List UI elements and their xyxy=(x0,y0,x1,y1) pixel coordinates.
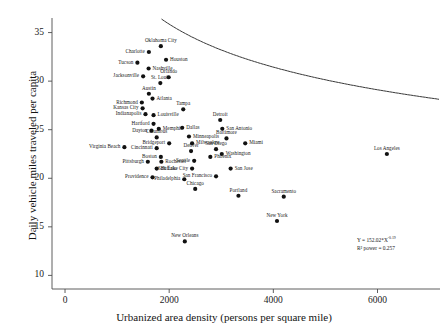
data-point-label: Tampa xyxy=(176,101,190,106)
data-point-label: Miami xyxy=(249,141,263,146)
data-point xyxy=(183,239,187,243)
data-point xyxy=(208,155,212,159)
data-point-label: Portland xyxy=(230,188,248,193)
power-fit-curve xyxy=(162,19,440,99)
data-point xyxy=(214,174,218,178)
data-point-label: Salt Lake City xyxy=(158,166,188,171)
data-point xyxy=(282,195,286,199)
data-point-label: Cincinnati xyxy=(131,146,153,151)
data-point-label: Austin xyxy=(142,86,156,91)
data-point-label: Oklahoma City xyxy=(145,38,177,43)
data-point-label: New York xyxy=(266,213,287,218)
data-point xyxy=(385,152,389,156)
data-point xyxy=(192,159,196,163)
fit-exponent: -0.19 xyxy=(388,236,396,240)
data-point xyxy=(189,149,193,153)
data-point-label: Sacramento xyxy=(271,189,296,194)
data-point xyxy=(190,166,194,170)
data-point-label: Dallas xyxy=(186,125,199,130)
data-point-label: Virginia Beach xyxy=(89,145,120,150)
data-point xyxy=(143,112,147,116)
data-point-label: Jacksonville xyxy=(113,74,139,79)
data-point xyxy=(214,147,218,151)
data-point-label: Tucson xyxy=(118,60,133,65)
data-point-label: New Orleans xyxy=(171,233,198,238)
data-point xyxy=(147,66,151,70)
x-tick-label-4000: 4000 xyxy=(243,296,303,306)
fit-equation-annotation: Y = 152.02*X-0.19 R² power = 0.257 xyxy=(357,236,396,253)
scatter-plot-figure: 101520253035 0200040006000 Oklahoma City… xyxy=(0,0,448,334)
data-point-label: San Jose xyxy=(235,166,253,171)
data-point-label: Charlotte xyxy=(125,49,144,54)
data-point-label: Providence xyxy=(125,175,148,180)
data-point xyxy=(243,141,247,145)
data-point-label: Louisville xyxy=(158,113,179,118)
data-point xyxy=(275,219,279,223)
data-point-label: Chicago xyxy=(187,181,204,186)
data-point-label: San Diego xyxy=(205,141,227,146)
x-tick-label-0: 0 xyxy=(35,296,95,306)
x-tick-label-2000: 2000 xyxy=(139,296,199,306)
fit-equation-text: Y = 152.02*X xyxy=(357,237,388,243)
data-point-label: St. Louis xyxy=(151,75,170,80)
data-point-label: Denver xyxy=(183,143,198,148)
data-point-label: Indianapolis xyxy=(116,112,142,117)
x-axis-ticks xyxy=(65,289,377,293)
data-point xyxy=(181,107,185,111)
data-point xyxy=(155,146,159,150)
data-point xyxy=(147,50,151,54)
data-point xyxy=(158,81,162,85)
data-point xyxy=(159,160,163,164)
data-point-label: Columbus xyxy=(146,129,167,134)
data-point-label: Houston xyxy=(170,57,188,62)
data-point-label: Phoenix xyxy=(214,154,231,159)
x-tick-label-6000: 6000 xyxy=(348,296,408,306)
data-point xyxy=(140,100,144,104)
fit-equation-line: Y = 152.02*X-0.19 xyxy=(357,236,396,244)
data-point-label: Baltimore xyxy=(216,130,237,135)
data-point-label: Boston xyxy=(142,154,157,159)
data-point xyxy=(141,74,145,78)
data-point xyxy=(135,61,139,65)
data-point-label: Detroit xyxy=(213,112,228,117)
data-point xyxy=(122,145,126,149)
data-point xyxy=(150,97,154,101)
data-point-label: Seattle xyxy=(176,158,190,163)
data-point xyxy=(236,194,240,198)
y-axis-ticks xyxy=(48,33,52,276)
y-axis-title: Daily vehicle miles traveled per capita xyxy=(27,36,38,276)
data-point-label: Atlanta xyxy=(157,96,172,101)
data-point xyxy=(159,44,163,48)
data-point xyxy=(151,113,155,117)
data-point-label: San Francisco xyxy=(183,174,212,179)
data-point xyxy=(151,122,155,126)
data-point xyxy=(159,155,163,159)
data-point-label: Hartford xyxy=(132,121,150,126)
data-point xyxy=(229,166,233,170)
plot-canvas xyxy=(0,0,448,334)
data-point xyxy=(147,92,151,96)
data-point-label: Los Angeles xyxy=(374,146,400,151)
data-point-label: Philadelphia xyxy=(154,177,180,182)
x-axis-title: Urbanized area density (persons per squa… xyxy=(0,312,448,323)
data-point xyxy=(164,58,168,62)
data-point xyxy=(218,118,222,122)
fit-r2-line: R² power = 0.257 xyxy=(357,244,396,252)
data-point-label: Pittsburgh xyxy=(122,159,143,164)
data-point xyxy=(146,160,150,164)
data-point xyxy=(193,187,197,191)
data-point xyxy=(187,134,191,138)
data-point xyxy=(167,141,171,145)
